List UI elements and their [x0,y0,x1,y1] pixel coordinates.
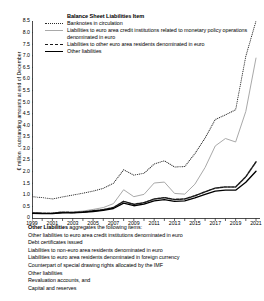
chart-figure: € million , outstanding amounts at end o… [0,0,264,301]
footnote-heading-rest: aggregates the following items: [68,224,142,230]
footnote-item: Liabilities to non-euro area residents d… [28,247,260,255]
legend-label-credit-institutions: Liabilities to euro area credit institut… [67,27,253,41]
y-axis-tick-label: 4.0 [14,123,30,128]
series-line [32,171,256,213]
legend-item-other-residents: Liabilities to other euro area residents… [45,41,253,48]
y-axis-tick-label: 4.5 [14,111,30,116]
y-axis-tick-label: 5.0 [14,100,30,105]
legend-key-dashed-icon [45,44,63,45]
y-axis-tick-label: 2.5 [14,157,30,162]
legend-key-solid-icon [45,51,63,52]
y-axis-tick-label: 0.5 [14,204,30,209]
legend-key-dotted-icon [45,23,63,24]
legend-title: Balance Sheet Liabilities Item [67,13,253,20]
legend-label-other-residents: Liabilities to other euro area residents… [67,41,253,48]
legend-item-credit-institutions: Liabilities to euro area credit institut… [45,27,253,41]
footnote-heading: Other Liabilities aggregates the followi… [28,224,260,232]
y-axis-tick-label: 7.5 [14,42,30,47]
footnote-item: Other liabilities [28,270,260,278]
footnote-block: Other Liabilities aggregates the followi… [28,224,260,292]
footnote-item: Capital and reserves [28,285,260,293]
y-axis-tick-label: 6.0 [14,76,30,81]
y-axis-tick-label: 8.0 [14,30,30,35]
footnote-item: Liabilities to euro area residents denom… [28,254,260,262]
y-axis-tick-label: 1.0 [14,192,30,197]
y-axis-tick-label: 7.0 [14,53,30,58]
y-axis-tick-label: 2.0 [14,169,30,174]
chart-legend: Balance Sheet Liabilities Item Banknotes… [45,13,253,55]
footnote-item: Other liabilities to euro area credit in… [28,232,260,240]
y-axis-tick-label: 5.5 [14,88,30,93]
y-axis-tick-labels: 00.51.01.52.02.53.03.54.04.55.05.56.06.5… [10,0,30,239]
y-axis-tick-label: 3.0 [14,146,30,151]
footnote-heading-bold: Other Liabilities [28,224,68,230]
legend-label-other-liabilities: Other liabilities [67,48,253,55]
y-axis-tick-label: 1.5 [14,181,30,186]
footnote-item: Debt certificates issued [28,239,260,247]
legend-key-gray-line-icon [45,30,63,31]
legend-item-banknotes: Banknotes in circulation [45,20,253,27]
footnote-item: Counterpart of special drawing rights al… [28,262,260,270]
y-axis-tick-label: 3.5 [14,134,30,139]
legend-item-other-liabilities: Other liabilities [45,48,253,55]
y-axis-tick-label: 6.5 [14,65,30,70]
series-line [32,162,256,213]
legend-label-banknotes: Banknotes in circulation [67,20,253,27]
y-axis-tick-label: 8.5 [14,18,30,23]
footnote-item: Revaluation accounts, and [28,277,260,285]
